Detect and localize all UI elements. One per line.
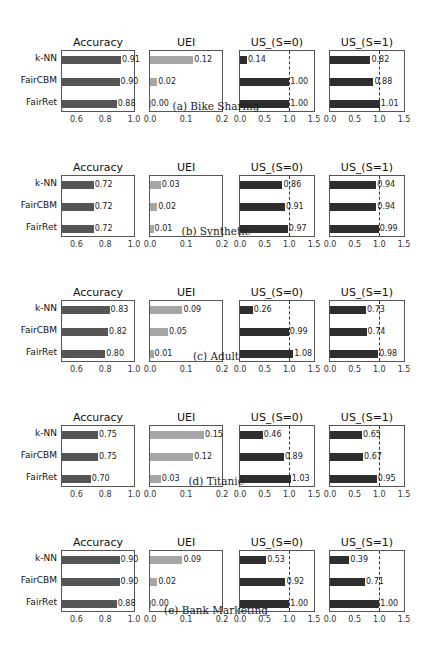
bar-value-label: 0.92 bbox=[286, 578, 304, 586]
x-tick-label: 0.0 bbox=[144, 365, 157, 374]
x-tick-label: 0.1 bbox=[180, 240, 193, 249]
bar bbox=[330, 56, 370, 64]
x-tick-label: 0.6 bbox=[70, 615, 83, 624]
x-tick-label: 1.0 bbox=[128, 365, 141, 374]
x-tick-label: 1.0 bbox=[128, 615, 141, 624]
method-label: FairCBM bbox=[21, 450, 57, 460]
method-label: FairCBM bbox=[21, 325, 57, 335]
x-tick-label: 0.1 bbox=[180, 365, 193, 374]
panel-title: UEI bbox=[149, 161, 223, 174]
x-tick-label: 0.0 bbox=[144, 615, 157, 624]
x-tick-label: 0.8 bbox=[99, 240, 112, 249]
chart-group-bank-marketing: k-NNFairCBMFairRetAccuracy0.900.900.880.… bbox=[0, 512, 432, 636]
x-tick-label: 1.0 bbox=[373, 240, 386, 249]
bar-value-label: 0.91 bbox=[122, 56, 140, 64]
x-tick-label: 1.0 bbox=[283, 615, 296, 624]
x-tick-label: 0.0 bbox=[324, 365, 337, 374]
x-tick-label: 1.5 bbox=[308, 115, 321, 124]
bar-value-label: 0.26 bbox=[254, 306, 272, 314]
bar-value-label: 0.39 bbox=[350, 556, 368, 564]
panel-axes-accuracy: 0.900.900.88 bbox=[61, 550, 135, 612]
x-tick-label: 0.2 bbox=[216, 365, 229, 374]
bar-value-label: 0.15 bbox=[205, 431, 223, 439]
x-tick-label: 1.0 bbox=[373, 615, 386, 624]
x-tick-label: 1.0 bbox=[128, 115, 141, 124]
bar bbox=[150, 578, 157, 586]
x-tick-label: 1.5 bbox=[398, 240, 411, 249]
method-label: k-NN bbox=[35, 178, 57, 188]
bar bbox=[240, 78, 289, 86]
bar-value-label: 0.09 bbox=[183, 556, 201, 564]
bar bbox=[240, 203, 285, 211]
x-tick-label: 1.5 bbox=[308, 240, 321, 249]
x-tick-label: 0.5 bbox=[258, 240, 271, 249]
bar bbox=[240, 556, 266, 564]
bar bbox=[330, 203, 376, 211]
panel-title: US_(S=0) bbox=[239, 536, 315, 549]
bar bbox=[330, 453, 363, 461]
x-tick-label: 1.0 bbox=[373, 490, 386, 499]
x-tick-label: 1.0 bbox=[128, 490, 141, 499]
chart-group-bike-sharing: k-NNFairCBMFairRetAccuracy0.910.900.880.… bbox=[0, 12, 432, 136]
method-label: k-NN bbox=[35, 303, 57, 313]
x-tick-label: 1.0 bbox=[283, 490, 296, 499]
x-tick-label: 1.0 bbox=[128, 240, 141, 249]
x-tick-label: 0.0 bbox=[234, 365, 247, 374]
bar bbox=[62, 431, 98, 439]
x-tick-label: 1.5 bbox=[398, 365, 411, 374]
x-tick-label: 0.5 bbox=[348, 615, 361, 624]
subfigure-caption: (a) Bike Sharing bbox=[0, 100, 432, 112]
x-tick-label: 0.5 bbox=[348, 490, 361, 499]
panel-title: US_(S=0) bbox=[239, 411, 315, 424]
x-tick-label: 1.0 bbox=[283, 365, 296, 374]
x-tick-label: 1.0 bbox=[283, 115, 296, 124]
panel-title: US_(S=1) bbox=[329, 286, 405, 299]
x-tick-label: 0.8 bbox=[99, 490, 112, 499]
x-tick-label: 1.5 bbox=[398, 615, 411, 624]
x-tick-label: 0.0 bbox=[234, 490, 247, 499]
x-tick-label: 1.0 bbox=[373, 365, 386, 374]
bar bbox=[240, 306, 253, 314]
chart-group-titanic: k-NNFairCBMFairRetAccuracy0.750.750.700.… bbox=[0, 387, 432, 511]
x-tick-label: 1.0 bbox=[283, 240, 296, 249]
x-tick-label: 1.5 bbox=[308, 490, 321, 499]
x-tick-label: 1.5 bbox=[398, 115, 411, 124]
method-label: k-NN bbox=[35, 428, 57, 438]
x-tick-label: 1.5 bbox=[398, 490, 411, 499]
panel-title: UEI bbox=[149, 536, 223, 549]
bar bbox=[62, 78, 120, 86]
bar-value-label: 0.74 bbox=[368, 328, 386, 336]
method-label: FairCBM bbox=[21, 575, 57, 585]
bar bbox=[330, 431, 362, 439]
panel-title: Accuracy bbox=[61, 286, 135, 299]
x-tick-label: 0.1 bbox=[180, 490, 193, 499]
panel-title: UEI bbox=[149, 36, 223, 49]
chart-group-synthetic: k-NNFairCBMFairRetAccuracy0.720.720.720.… bbox=[0, 137, 432, 261]
bar-value-label: 0.90 bbox=[121, 578, 139, 586]
x-tick-label: 0.8 bbox=[99, 365, 112, 374]
chart-group-adult: k-NNFairCBMFairRetAccuracy0.830.820.800.… bbox=[0, 262, 432, 386]
bar bbox=[62, 181, 94, 189]
method-label: k-NN bbox=[35, 53, 57, 63]
x-tick-label: 0.5 bbox=[258, 115, 271, 124]
panel-title: Accuracy bbox=[61, 536, 135, 549]
x-tick-label: 0.0 bbox=[234, 615, 247, 624]
bar-value-label: 0.94 bbox=[377, 203, 395, 211]
bar bbox=[240, 453, 284, 461]
bar-value-label: 0.02 bbox=[158, 78, 176, 86]
bar bbox=[62, 56, 121, 64]
subfigure-caption: (c) Adult bbox=[0, 350, 432, 362]
method-label: FairCBM bbox=[21, 75, 57, 85]
bar bbox=[150, 203, 157, 211]
panel-title: Accuracy bbox=[61, 36, 135, 49]
bar-value-label: 0.86 bbox=[283, 181, 301, 189]
x-tick-label: 0.0 bbox=[144, 115, 157, 124]
panel-title: US_(S=1) bbox=[329, 536, 405, 549]
bar-value-label: 0.82 bbox=[109, 328, 127, 336]
x-tick-label: 0.1 bbox=[180, 615, 193, 624]
bar-value-label: 0.99 bbox=[290, 328, 308, 336]
bar-value-label: 0.02 bbox=[158, 203, 176, 211]
panel-title: US_(S=0) bbox=[239, 161, 315, 174]
panel-title: UEI bbox=[149, 286, 223, 299]
bar-value-label: 0.91 bbox=[286, 203, 304, 211]
